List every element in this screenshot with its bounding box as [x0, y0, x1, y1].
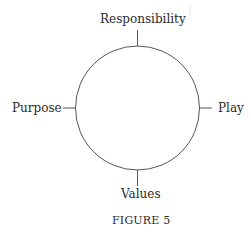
- center-circle: [76, 46, 200, 170]
- figure-caption: FIGURE 5: [112, 214, 170, 227]
- label-bottom: Values: [121, 187, 161, 201]
- label-top: Responsibility: [100, 12, 186, 26]
- label-left: Purpose: [12, 101, 62, 115]
- label-right: Play: [218, 101, 244, 115]
